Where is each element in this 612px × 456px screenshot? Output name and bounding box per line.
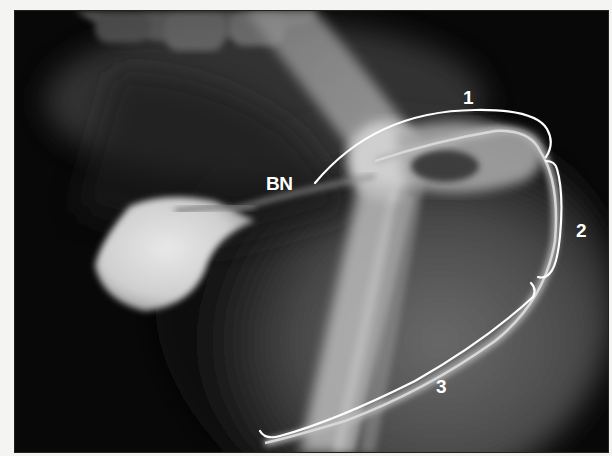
radiograph-image: [15, 11, 608, 452]
label-bladder-neck: BN: [266, 174, 292, 193]
label-segment-2: 2: [576, 221, 586, 240]
label-segment-1: 1: [463, 88, 473, 107]
radiograph-frame: BN 1 2 3: [14, 10, 609, 453]
label-segment-3: 3: [436, 377, 446, 396]
